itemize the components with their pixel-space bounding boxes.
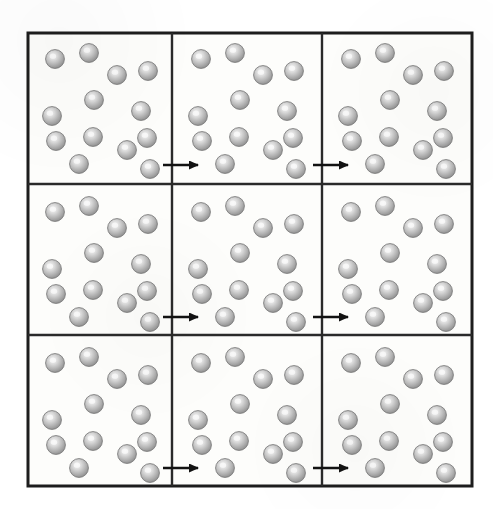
particle-highlight <box>289 370 295 375</box>
particle-sphere <box>437 160 456 179</box>
particle-highlight <box>143 370 149 375</box>
particle-highlight <box>145 468 151 473</box>
particle-sphere <box>118 141 137 160</box>
particle-highlight <box>384 436 390 441</box>
particle-sphere <box>254 219 273 238</box>
particle-sphere <box>231 91 250 110</box>
particle-sphere <box>339 260 358 279</box>
particle-highlight <box>346 54 352 59</box>
particle-highlight <box>234 436 240 441</box>
particle-sphere <box>284 129 303 148</box>
particle-highlight <box>193 415 199 420</box>
particle-highlight <box>143 66 149 71</box>
particle-sphere <box>284 282 303 301</box>
particle-highlight <box>220 463 226 468</box>
particle-highlight <box>380 201 386 206</box>
particle-highlight <box>282 259 288 264</box>
particle-sphere <box>404 66 423 85</box>
particle-sphere <box>47 285 66 304</box>
particle-highlight <box>89 248 95 253</box>
particle-sphere <box>343 132 362 151</box>
particle-sphere <box>264 294 283 313</box>
particle-sphere <box>366 459 385 478</box>
particle-highlight <box>418 298 424 303</box>
particle-sphere <box>47 436 66 455</box>
particle-highlight <box>234 285 240 290</box>
particle-highlight <box>88 285 94 290</box>
particle-sphere <box>189 107 208 126</box>
particle-sphere <box>437 464 456 483</box>
particle-sphere <box>366 155 385 174</box>
particle-sphere <box>216 308 235 327</box>
particle-sphere <box>254 370 273 389</box>
particle-sphere <box>192 203 211 222</box>
particle-sphere <box>278 406 297 425</box>
particle-highlight <box>432 259 438 264</box>
particle-highlight <box>343 264 349 269</box>
particle-highlight <box>289 219 295 224</box>
particle-highlight <box>84 48 90 53</box>
particle-sphere <box>414 141 433 160</box>
particle-sphere <box>139 215 158 234</box>
particle-highlight <box>112 374 118 379</box>
particle-highlight <box>235 95 241 100</box>
particle-sphere <box>343 436 362 455</box>
particle-sphere <box>108 219 127 238</box>
particle-sphere <box>404 370 423 389</box>
particle-highlight <box>288 437 294 442</box>
particle-sphere <box>230 128 249 147</box>
particle-highlight <box>346 358 352 363</box>
particle-highlight <box>47 415 53 420</box>
particle-sphere <box>264 141 283 160</box>
particle-highlight <box>89 399 95 404</box>
particle-sphere <box>366 308 385 327</box>
particle-sphere <box>85 244 104 263</box>
particle-sphere <box>132 255 151 274</box>
particle-highlight <box>142 286 148 291</box>
particle-highlight <box>291 164 297 169</box>
particle-highlight <box>74 312 80 317</box>
particle-sphere <box>381 91 400 110</box>
particle-highlight <box>235 248 241 253</box>
particle-sphere <box>216 155 235 174</box>
particle-highlight <box>88 436 94 441</box>
particle-highlight <box>385 399 391 404</box>
particle-highlight <box>51 440 57 445</box>
particle-sphere <box>435 62 454 81</box>
particle-highlight <box>136 410 142 415</box>
particle-sphere <box>434 433 453 452</box>
particle-sphere <box>132 406 151 425</box>
particle-highlight <box>439 219 445 224</box>
particle-sphere <box>435 215 454 234</box>
particle-sphere <box>380 128 399 147</box>
particle-sphere <box>278 255 297 274</box>
figure-root <box>0 0 493 509</box>
particle-highlight <box>145 317 151 322</box>
particle-highlight <box>197 440 203 445</box>
particle-highlight <box>288 286 294 291</box>
particle-highlight <box>234 132 240 137</box>
particle-highlight <box>385 95 391 100</box>
particle-sphere <box>118 445 137 464</box>
particle-highlight <box>230 352 236 357</box>
particle-highlight <box>370 312 376 317</box>
particle-highlight <box>439 66 445 71</box>
particle-sphere <box>189 411 208 430</box>
particle-highlight <box>220 312 226 317</box>
particle-sphere <box>404 219 423 238</box>
particle-sphere <box>84 281 103 300</box>
particle-sphere <box>434 129 453 148</box>
particle-highlight <box>347 440 353 445</box>
particle-sphere <box>285 62 304 81</box>
particle-highlight <box>136 106 142 111</box>
particle-sphere <box>376 348 395 367</box>
particle-sphere <box>70 308 89 327</box>
particle-highlight <box>196 358 202 363</box>
particle-sphere <box>285 366 304 385</box>
particle-highlight <box>439 370 445 375</box>
particle-highlight <box>235 399 241 404</box>
particle-highlight <box>196 54 202 59</box>
particle-highlight <box>197 289 203 294</box>
particle-highlight <box>74 159 80 164</box>
particle-highlight <box>74 463 80 468</box>
